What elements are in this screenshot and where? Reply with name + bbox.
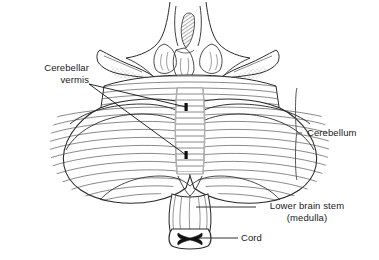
label-lower-brain-stem-line1: Lower brain stem	[259, 200, 355, 212]
label-cerebellar-vermis: Cerebellar vermis	[17, 62, 89, 86]
midbrain-group	[126, 2, 250, 80]
pineal-region	[181, 13, 194, 48]
leader-vermis-upper-tick	[185, 103, 188, 111]
cerebellar-vermis	[176, 88, 205, 174]
label-cerebellum: Cerebellum	[307, 127, 357, 139]
spinal-cord-cross-section	[169, 229, 211, 249]
label-cerebellar-vermis-line2: vermis	[17, 74, 89, 86]
label-lower-brain-stem-line2: (medulla)	[259, 212, 355, 224]
midbrain-texture	[161, 52, 218, 75]
medulla-group	[169, 194, 211, 233]
midbrain-top-outline-right	[206, 2, 250, 58]
midbrain-stalk-right	[198, 6, 201, 46]
label-cerebellar-vermis-line1: Cerebellar	[17, 62, 89, 74]
leader-vermis-lower-tick	[185, 151, 188, 159]
midbrain-top-outline	[126, 2, 170, 58]
midbrain-stalk-left	[175, 6, 178, 46]
label-cord: Cord	[241, 232, 262, 244]
cerebellum-group	[48, 75, 332, 204]
colliculus-superior-right	[200, 44, 222, 73]
label-lower-brain-stem: Lower brain stem (medulla)	[259, 200, 355, 224]
colliculus-inferior-divider	[176, 50, 194, 53]
